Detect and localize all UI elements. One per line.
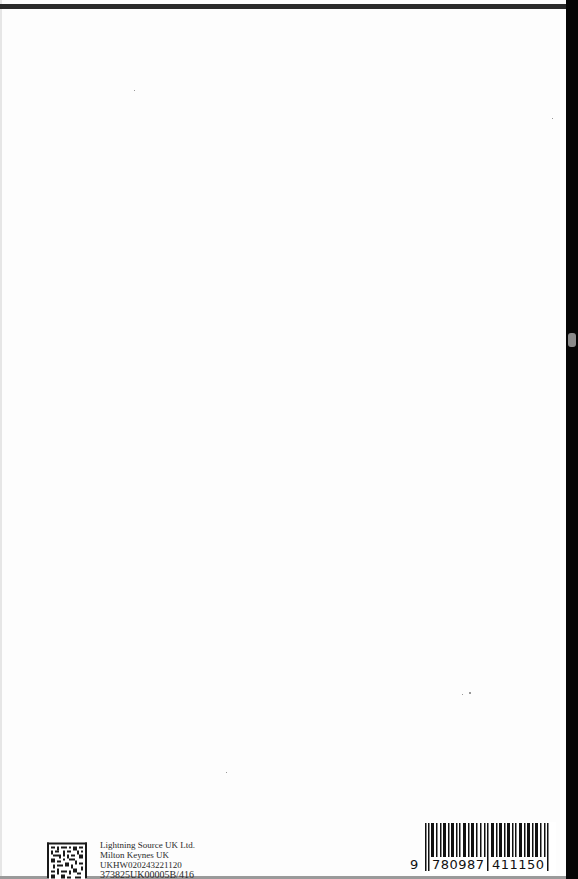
scan-edge-mark [568,333,576,347]
isbn-prefix-digit: 9 [410,857,418,872]
book-back-page: Lightning Source UK Ltd. Milton Keynes U… [0,0,578,879]
printer-location: Milton Keynes UK [100,850,195,860]
printer-name: Lightning Source UK Ltd. [100,840,195,850]
page-left-shadow [0,0,2,879]
isbn-digits-group-1: 780987 [431,857,486,872]
isbn-digits-group-2: 411150 [491,857,546,872]
top-rule-divider [0,4,566,9]
scan-right-edge [566,0,578,879]
data-matrix-code-icon [47,842,87,879]
printer-imprint: Lightning Source UK Ltd. Milton Keynes U… [100,840,195,879]
batch-code: 373825UK00005B/416 [100,870,195,879]
